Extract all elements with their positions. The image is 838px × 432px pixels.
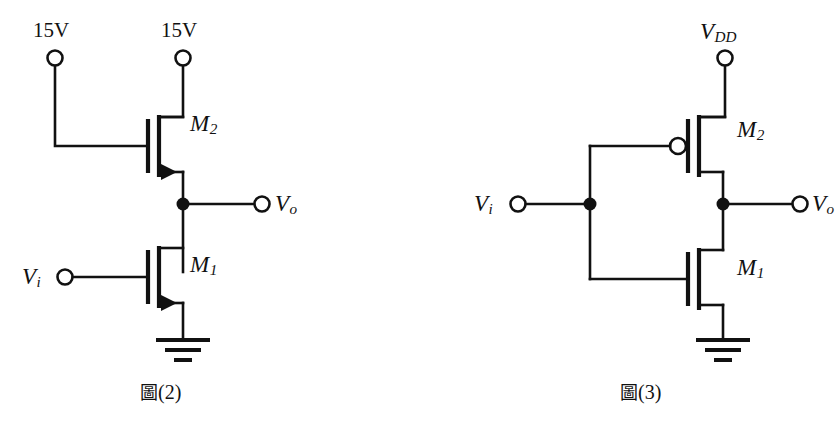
label-supply-right-15v: 15V: [161, 20, 197, 41]
caption-figure-3-number: (3): [638, 381, 661, 403]
node-dot-output-fig2: [177, 198, 190, 211]
label-input-vi-sub-fig2: i: [36, 273, 41, 290]
node-dot-output-fig3: [717, 198, 730, 211]
circuit-figure-3: [511, 51, 808, 361]
caption-figure-3: 圖(3): [620, 382, 661, 402]
label-supply-vdd-sub-fig3: DD: [714, 28, 736, 45]
ground-symbol-fig3: [696, 340, 750, 360]
transistor-m2-fig2[interactable]: [148, 115, 183, 180]
circuit-schematic-canvas: [0, 0, 838, 432]
terminal-supply-left-15v[interactable]: [48, 51, 63, 66]
label-output-vo-sub-fig2: o: [289, 200, 297, 217]
label-device-m1-main-fig2: M: [190, 252, 209, 277]
transistor-m2-fig3[interactable]: [590, 115, 725, 177]
label-device-m1-fig2: M1: [190, 253, 217, 278]
terminal-input-vi-fig2[interactable]: [58, 270, 73, 285]
m2-source-arrow-fig2: [161, 164, 177, 180]
wire-supply-right-to-m2-drain: [160, 66, 183, 117]
label-output-vo-main-fig3: V: [812, 191, 826, 216]
label-device-m1-main-fig3: M: [737, 255, 756, 280]
wire-supply-left-to-m2-gate: [55, 66, 148, 146]
label-device-m2-sub-fig2: 2: [209, 120, 217, 137]
circuit-figure-2: [48, 51, 270, 361]
label-input-vi-main-fig3: V: [474, 191, 488, 216]
label-input-vi-fig2: Vi: [22, 265, 41, 290]
wire-vdd-to-m2-source-fig3: [700, 66, 725, 117]
transistor-m1-fig2[interactable]: [148, 246, 183, 311]
label-output-vo-main-fig2: V: [275, 191, 289, 216]
label-input-vi-main-fig2: V: [22, 264, 36, 289]
label-device-m2-main-fig3: M: [737, 117, 756, 142]
caption-figure-2: 圖(2): [140, 382, 181, 402]
m1-source-arrow-fig2: [161, 295, 177, 311]
terminal-output-vo-fig2[interactable]: [255, 197, 270, 212]
label-output-vo-fig3: Vo: [812, 192, 834, 217]
label-device-m1-fig3: M1: [737, 256, 764, 281]
label-supply-vdd-fig3: VDD: [700, 20, 736, 45]
caption-figure-2-number: (2): [158, 381, 181, 403]
m2-gate-bubble-icon-fig3: [670, 138, 686, 154]
terminal-input-vi-fig3[interactable]: [511, 197, 526, 212]
ground-symbol-fig2: [156, 340, 210, 360]
transistor-m1-fig3[interactable]: [590, 248, 723, 310]
label-input-vi-sub-fig3: i: [488, 200, 493, 217]
terminal-supply-vdd-fig3[interactable]: [718, 51, 733, 66]
figure-board: 15V 15V M2 Vo Vi M1 圖(2) VDD M2 Vi Vo M1…: [0, 0, 838, 432]
label-input-vi-fig3: Vi: [474, 192, 493, 217]
label-device-m2-sub-fig3: 2: [756, 126, 764, 143]
terminal-supply-right-15v[interactable]: [176, 51, 191, 66]
caption-figure-3-cjk: 圖: [620, 382, 638, 403]
label-device-m1-sub-fig2: 1: [209, 261, 217, 278]
node-dot-input-fig3: [584, 198, 597, 211]
label-device-m2-main-fig2: M: [190, 111, 209, 136]
label-device-m2-fig3: M2: [737, 118, 764, 143]
label-output-vo-sub-fig3: o: [826, 200, 834, 217]
label-output-vo-fig2: Vo: [275, 192, 297, 217]
label-device-m2-fig2: M2: [190, 112, 217, 137]
label-supply-left-15v: 15V: [33, 20, 69, 41]
label-device-m1-sub-fig3: 1: [756, 264, 764, 281]
label-supply-vdd-main-fig3: V: [700, 19, 714, 44]
terminal-output-vo-fig3[interactable]: [793, 197, 808, 212]
caption-figure-2-cjk: 圖: [140, 382, 158, 403]
